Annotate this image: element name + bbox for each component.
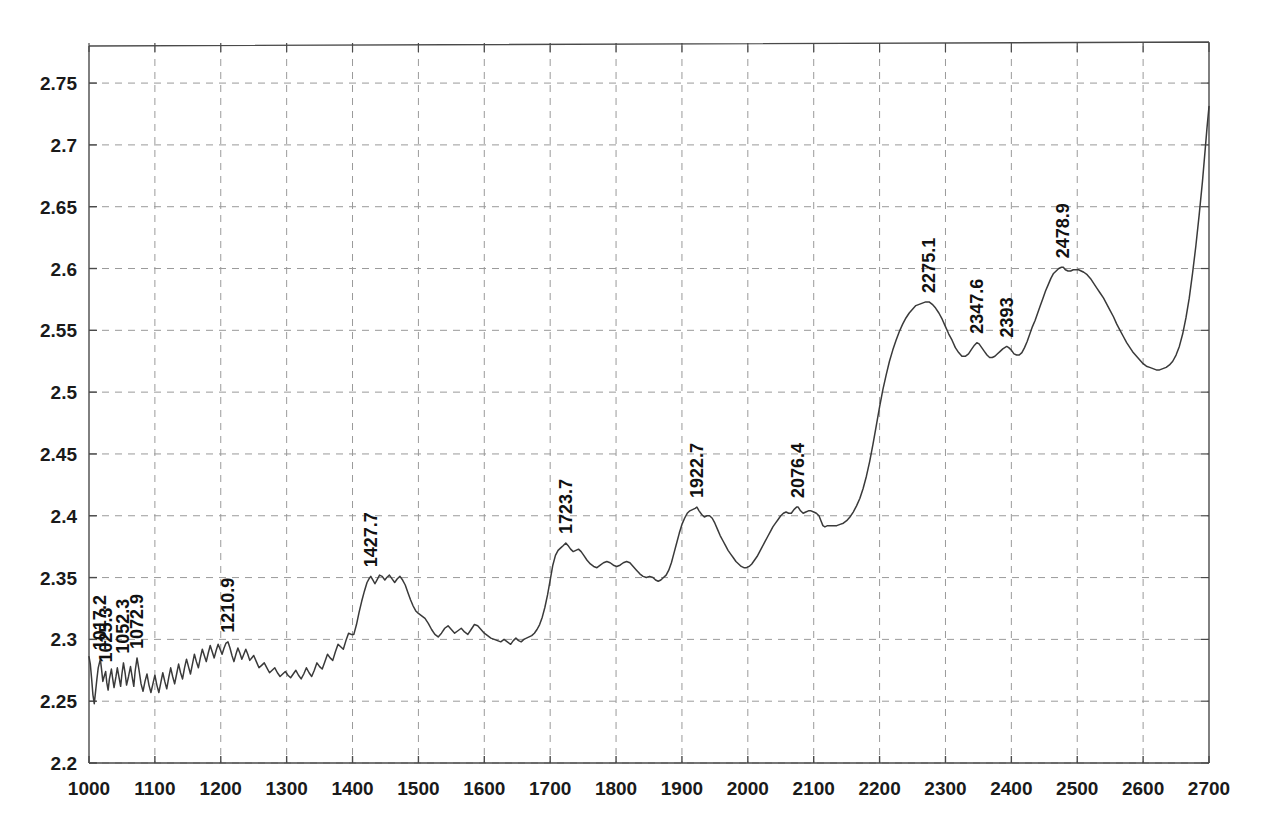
peak-label: 2076.4 bbox=[788, 443, 808, 498]
y-tick-label: 2.35 bbox=[40, 568, 77, 589]
x-tick-label: 2300 bbox=[924, 778, 966, 799]
x-tick-label: 1200 bbox=[200, 778, 242, 799]
y-tick-label: 2.3 bbox=[51, 629, 77, 650]
x-tick-label: 2000 bbox=[727, 778, 769, 799]
peak-label: 2478.9 bbox=[1053, 203, 1073, 258]
x-tick-label: 1500 bbox=[397, 778, 439, 799]
spectrum-line bbox=[89, 107, 1209, 704]
x-tick-label: 1700 bbox=[529, 778, 571, 799]
x-tick-label: 1800 bbox=[595, 778, 637, 799]
y-tick-label: 2.6 bbox=[51, 259, 77, 280]
x-tick-label: 2600 bbox=[1122, 778, 1164, 799]
x-tick-label: 2200 bbox=[858, 778, 900, 799]
peak-label: 1723.7 bbox=[556, 479, 576, 534]
x-tick-label: 1600 bbox=[463, 778, 505, 799]
y-tick-label: 2.25 bbox=[40, 691, 77, 712]
y-tick-label: 2.45 bbox=[40, 444, 77, 465]
x-tick-label: 1100 bbox=[134, 778, 175, 799]
x-tick-label: 2400 bbox=[990, 778, 1032, 799]
chart-page: 2.22.252.32.352.42.452.52.552.62.652.72.… bbox=[0, 0, 1262, 831]
peak-label: 1427.7 bbox=[361, 512, 381, 567]
peak-label: 1210.9 bbox=[218, 578, 238, 633]
peak-label: 1072.9 bbox=[127, 594, 147, 649]
y-tick-label: 2.7 bbox=[51, 135, 77, 156]
peak-label: 1922.7 bbox=[687, 443, 707, 498]
peak-label: 2275.1 bbox=[919, 238, 939, 293]
x-axis-tick-labels: 1000110012001300140015001600170018001900… bbox=[68, 778, 1230, 799]
x-tick-label: 1400 bbox=[331, 778, 373, 799]
peak-annotations: 1017.21025.31052.31072.91210.91427.71723… bbox=[90, 203, 1073, 662]
x-tick-label: 1300 bbox=[266, 778, 308, 799]
grid-lines bbox=[89, 46, 1209, 763]
x-tick-label: 1000 bbox=[68, 778, 110, 799]
y-tick-label: 2.4 bbox=[51, 506, 78, 527]
y-tick-label: 2.65 bbox=[40, 197, 77, 218]
x-tick-label: 2100 bbox=[793, 778, 835, 799]
peak-label: 2393 bbox=[997, 297, 1017, 337]
y-tick-label: 2.75 bbox=[40, 73, 77, 94]
y-axis-tick-labels: 2.22.252.32.352.42.452.52.552.62.652.72.… bbox=[40, 73, 77, 774]
peak-label: 2347.6 bbox=[967, 279, 987, 334]
x-tick-label: 1900 bbox=[661, 778, 703, 799]
x-tick-label: 2500 bbox=[1056, 778, 1098, 799]
y-tick-label: 2.55 bbox=[40, 320, 77, 341]
spectrum-chart: 2.22.252.32.352.42.452.52.552.62.652.72.… bbox=[0, 0, 1262, 831]
y-tick-label: 2.5 bbox=[51, 382, 78, 403]
plot-frame bbox=[89, 42, 1209, 763]
axis-ticks bbox=[89, 43, 1209, 763]
x-tick-label: 2700 bbox=[1188, 778, 1230, 799]
y-tick-label: 2.2 bbox=[51, 753, 77, 774]
